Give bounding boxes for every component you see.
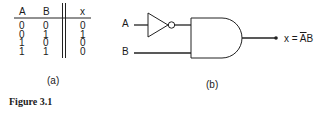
not-gate-icon xyxy=(148,13,168,37)
output-node-icon xyxy=(274,36,278,40)
inverter-bubble-icon xyxy=(168,22,174,28)
and-gate-icon xyxy=(191,18,242,58)
diagram-lines xyxy=(0,0,328,115)
